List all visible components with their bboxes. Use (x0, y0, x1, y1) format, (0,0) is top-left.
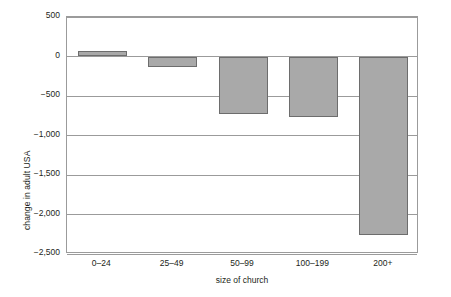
plot-area (66, 16, 418, 253)
bar-chart: change in adult USA 5000−500−1,000−1,500… (0, 0, 451, 297)
y-axis-tick-labels: 5000−500−1,000−1,500−2,000−2,500 (14, 0, 60, 297)
y-tick-label: −500 (14, 90, 60, 99)
bars-layer (67, 17, 417, 252)
x-tick-label: 200+ (348, 258, 418, 268)
x-axis-title: size of church (66, 275, 418, 285)
x-tick-label: 50–99 (207, 258, 277, 268)
x-tick-label: 25–49 (136, 258, 206, 268)
x-axis-tick-labels: 0–2425–4950–99100–199200+ (66, 258, 418, 272)
gridline-neg2500 (67, 254, 417, 255)
bar (78, 51, 127, 57)
x-tick-label: 0–24 (66, 258, 136, 268)
y-tick-label: −2,500 (14, 248, 60, 257)
y-tick-label: −2,000 (14, 209, 60, 218)
bar (359, 57, 408, 236)
bar (219, 57, 268, 115)
y-tick-label: 500 (14, 11, 60, 20)
x-tick-label: 100–199 (277, 258, 347, 268)
bar (289, 57, 338, 118)
bar (148, 57, 197, 68)
y-tick-label: −1,500 (14, 169, 60, 178)
y-tick-label: 0 (14, 51, 60, 60)
y-tick-label: −1,000 (14, 130, 60, 139)
